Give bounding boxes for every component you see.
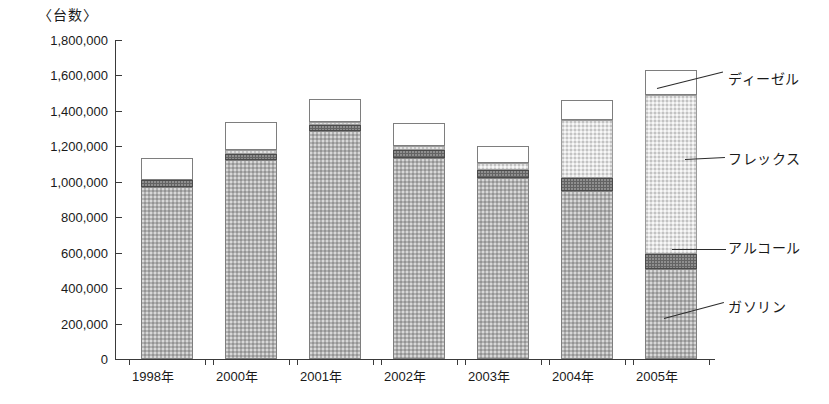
bar-segment-ディーゼル bbox=[477, 146, 529, 163]
bar-segment-ディーゼル bbox=[141, 158, 193, 180]
x-axis-tick-label: 2003年 bbox=[449, 366, 529, 385]
x-axis-tick bbox=[213, 359, 214, 365]
x-axis-tick-label: 2000年 bbox=[197, 366, 277, 385]
bar-segment-フレックス bbox=[477, 163, 529, 170]
y-axis-tick-label: 1,600,000 bbox=[50, 68, 108, 83]
legend-label-alcohol: アルコール bbox=[728, 237, 801, 257]
bar-2004年 bbox=[561, 100, 613, 359]
y-axis-tick-label: 1,400,000 bbox=[50, 103, 108, 118]
y-axis-tick-label: 600,000 bbox=[61, 245, 108, 260]
y-axis-tick bbox=[115, 217, 122, 218]
x-axis-tick bbox=[129, 359, 130, 365]
bar-segment-ガソリン bbox=[645, 269, 697, 359]
y-axis-tick bbox=[115, 146, 122, 147]
y-axis-tick bbox=[115, 111, 122, 112]
y-axis-tick bbox=[115, 359, 122, 360]
y-axis-tick bbox=[115, 40, 122, 41]
x-axis-tick bbox=[381, 359, 382, 365]
bar-segment-フレックス bbox=[645, 95, 697, 255]
x-axis-tick-label: 2005年 bbox=[617, 366, 697, 385]
bar-segment-アルコール bbox=[309, 125, 361, 131]
x-axis-tick bbox=[297, 359, 298, 365]
bar-1998年 bbox=[141, 158, 193, 359]
bar-segment-ガソリン bbox=[225, 160, 277, 359]
bar-segment-ガソリン bbox=[141, 187, 193, 359]
x-axis-tick-label: 2002年 bbox=[365, 366, 445, 385]
x-axis-tick-label: 1998年 bbox=[113, 366, 193, 385]
y-axis-tick-label: 800,000 bbox=[61, 210, 108, 225]
y-axis-unit-title: 〈台数〉 bbox=[38, 4, 98, 24]
bar-segment-ガソリン bbox=[477, 178, 529, 359]
legend-label-gasoline: ガソリン bbox=[728, 296, 786, 316]
bar-2003年 bbox=[477, 146, 529, 359]
bar-segment-アルコール bbox=[141, 180, 193, 187]
y-axis-tick-label: 400,000 bbox=[61, 281, 108, 296]
bar-segment-フレックス bbox=[225, 150, 277, 154]
y-axis-tick-label: 1,000,000 bbox=[50, 174, 108, 189]
x-axis-tick bbox=[709, 359, 710, 365]
bar-segment-アルコール bbox=[393, 150, 445, 158]
x-axis-tick bbox=[625, 359, 626, 365]
y-axis-tick bbox=[115, 75, 122, 76]
x-axis-tick bbox=[633, 359, 634, 365]
y-axis-tick bbox=[115, 324, 122, 325]
y-axis-tick-label: 1,200,000 bbox=[50, 139, 108, 154]
bar-segment-ガソリン bbox=[309, 131, 361, 359]
stacked-bar-chart: 〈台数〉 1,800,0001,600,0001,400,0001,200,00… bbox=[0, 0, 829, 404]
y-axis-tick-label: 0 bbox=[101, 352, 108, 367]
legend-label-flex: フレックス bbox=[728, 148, 801, 168]
leader-line-alcohol bbox=[672, 249, 726, 250]
y-axis-tick bbox=[115, 253, 122, 254]
y-axis-tick-label: 1,800,000 bbox=[50, 33, 108, 48]
bar-segment-アルコール bbox=[477, 170, 529, 178]
bar-segment-ディーゼル bbox=[393, 123, 445, 146]
bar-segment-ディーゼル bbox=[561, 100, 613, 119]
bar-2001年 bbox=[309, 99, 361, 359]
bar-2002年 bbox=[393, 123, 445, 359]
x-axis-tick bbox=[457, 359, 458, 365]
bar-segment-ディーゼル bbox=[645, 70, 697, 95]
x-axis-tick bbox=[465, 359, 466, 365]
x-axis-tick bbox=[289, 359, 290, 365]
y-axis-line bbox=[115, 40, 116, 359]
bar-segment-フレックス bbox=[393, 146, 445, 150]
bar-segment-アルコール bbox=[225, 154, 277, 159]
bar-segment-ガソリン bbox=[393, 158, 445, 359]
bar-2000年 bbox=[225, 122, 277, 359]
bar-segment-フレックス bbox=[561, 120, 613, 178]
x-axis-tick-label: 2001年 bbox=[281, 366, 361, 385]
x-axis-tick-label: 2004年 bbox=[533, 366, 613, 385]
bar-segment-アルコール bbox=[645, 254, 697, 268]
x-axis-tick bbox=[549, 359, 550, 365]
bar-segment-アルコール bbox=[561, 178, 613, 190]
bar-segment-フレックス bbox=[309, 122, 361, 126]
plot-area bbox=[115, 40, 715, 359]
y-axis-labels: 1,800,0001,600,0001,400,0001,200,0001,00… bbox=[0, 40, 108, 359]
y-axis-tick bbox=[115, 182, 122, 183]
y-axis-tick bbox=[115, 288, 122, 289]
bar-segment-ガソリン bbox=[561, 191, 613, 359]
x-axis-tick bbox=[541, 359, 542, 365]
bar-segment-ディーゼル bbox=[225, 122, 277, 149]
bar-segment-ディーゼル bbox=[309, 99, 361, 121]
legend-label-diesel: ディーゼル bbox=[728, 68, 800, 88]
y-axis-tick-label: 200,000 bbox=[61, 316, 108, 331]
x-axis-tick bbox=[205, 359, 206, 365]
x-axis-tick bbox=[373, 359, 374, 365]
